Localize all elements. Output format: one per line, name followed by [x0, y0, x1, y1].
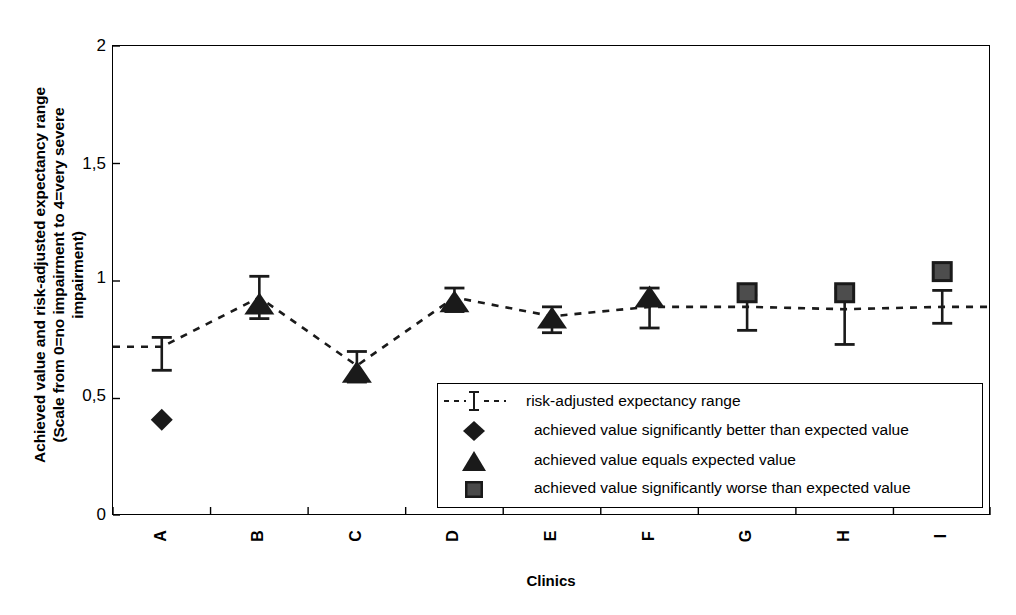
legend-row-square: achieved value significantly worse than …: [438, 474, 982, 502]
chart-legend: risk-adjusted expectancy range achieved …: [437, 383, 983, 508]
x-tick-label-d: D: [444, 516, 462, 556]
data-point-e: [537, 307, 567, 329]
x-axis-title: Clinics: [112, 572, 990, 589]
legend-row-diamond: achieved value significantly better than…: [438, 416, 982, 444]
diamond-icon: [438, 416, 534, 444]
errorbar-icon: [438, 387, 534, 415]
x-tick-label-a: A: [152, 516, 170, 556]
legend-row-range: risk-adjusted expectancy range: [438, 387, 982, 415]
data-point-f: [635, 285, 665, 307]
data-point-g: [740, 285, 755, 300]
x-tick-label-f: F: [640, 516, 658, 556]
legend-label-diamond: achieved value significantly better than…: [534, 422, 909, 438]
x-tick-label-e: E: [542, 516, 560, 556]
x-axis-tick-labels: A B C D E F G H I: [112, 515, 990, 575]
x-tick-label-c: C: [347, 516, 365, 556]
data-point-d: [439, 290, 469, 312]
y-axis-tick-labels: 2 1,5 1 0,5 0: [64, 0, 106, 560]
y-tick-label-0-5: 0,5: [64, 387, 106, 404]
data-point-i: [935, 264, 950, 279]
data-point-c: [342, 361, 372, 383]
legend-row-triangle: achieved value equals expected value: [438, 446, 982, 474]
y-tick-label-0: 0: [64, 506, 106, 523]
data-point-a: [151, 409, 173, 431]
y-tick-label-1: 1: [64, 269, 106, 286]
x-tick-label-g: G: [737, 516, 755, 556]
legend-label-triangle: achieved value equals expected value: [534, 452, 796, 468]
y-tick-label-1-5: 1,5: [64, 155, 106, 172]
triangle-icon: [438, 446, 534, 474]
x-tick-label-h: H: [835, 516, 853, 556]
page-edge-artifact: [0, 598, 1016, 615]
chart-figure: Achieved value and risk-adjusted expecta…: [0, 0, 1016, 615]
x-tick-label-i: I: [932, 516, 950, 556]
legend-label-square: achieved value significantly worse than …: [534, 480, 911, 496]
data-point-h: [837, 285, 852, 300]
expectancy-error-bars: [152, 276, 952, 382]
square-icon: [438, 474, 534, 502]
x-tick-label-b: B: [249, 516, 267, 556]
legend-label-range: risk-adjusted expectancy range: [526, 393, 741, 409]
y-tick-label-2: 2: [64, 37, 106, 54]
